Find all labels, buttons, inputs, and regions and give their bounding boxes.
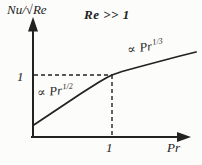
figure-title: Re >> 1 <box>84 8 130 21</box>
annotation-exponent: 1/3 <box>152 36 164 46</box>
x-axis-label: Pr <box>167 141 180 154</box>
annotation-base: Pr <box>49 84 63 99</box>
annotation-exponent: 1/2 <box>62 81 73 91</box>
y-axis-label: Nu/√Re <box>7 3 47 16</box>
y-tick-label: 1 <box>17 70 24 83</box>
proportional-to-icon: ∝ <box>36 85 46 100</box>
x-tick-label: 1 <box>106 141 113 154</box>
annotation-base: Pr <box>138 39 153 55</box>
heat-transfer-scaling-figure: Nu/√Re Re >> 1 1 1 Pr ∝Pr1/2 ∝Pr1/3 <box>0 0 202 165</box>
proportional-to-icon: ∝ <box>126 42 137 57</box>
y-axis-arrowhead-icon <box>28 17 38 32</box>
